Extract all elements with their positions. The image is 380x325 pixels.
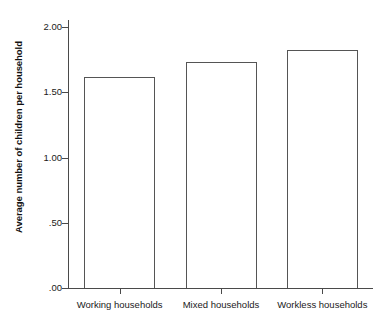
x-axis-line: [62, 288, 373, 289]
y-axis-tick-label: .50: [16, 218, 62, 228]
y-axis-tick: [62, 223, 69, 224]
x-axis-tick: [221, 288, 222, 294]
bar: [84, 77, 155, 288]
y-axis-tick-label: 1.50: [16, 87, 62, 97]
y-axis-tick-label: .00: [16, 283, 62, 293]
x-axis-tick: [120, 288, 121, 294]
x-axis-tick-label: Mixed households: [183, 299, 260, 310]
bar: [287, 50, 358, 288]
y-axis-tick: [62, 27, 69, 28]
y-axis-tick: [62, 158, 69, 159]
y-axis-tick: [62, 92, 69, 93]
x-axis-tick: [322, 288, 323, 294]
y-axis-tick-label: 1.00: [16, 153, 62, 163]
x-axis-tick-label: Working households: [77, 299, 163, 310]
y-axis-tick: [62, 288, 69, 289]
bar-chart-figure: Average number of children per household…: [0, 0, 380, 325]
x-axis-tick-label: Workless households: [277, 299, 367, 310]
y-axis-title: Average number of children per household: [12, 0, 26, 282]
bar: [186, 62, 257, 288]
y-axis-line: [68, 20, 69, 289]
y-axis-tick-label: 2.00: [16, 22, 62, 32]
